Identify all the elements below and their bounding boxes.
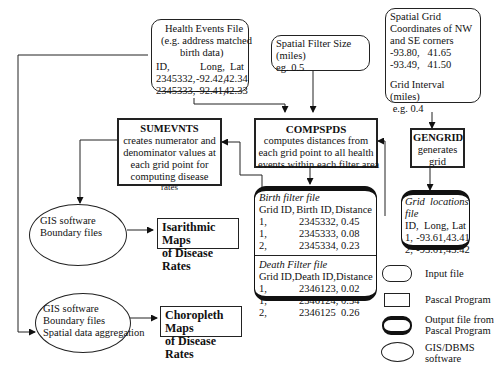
grid-locations-row: 1, -93.61, 43.41 bbox=[405, 232, 466, 244]
filter-output-file: Birth filter file Grid ID, Birth ID, Dis… bbox=[254, 186, 377, 301]
health-file-header: ID, Long, Lat bbox=[156, 61, 244, 73]
sumevnts-desc: creates numerator and bbox=[121, 135, 218, 147]
death-filter-row: 1, 2346124, 0.34 bbox=[259, 295, 372, 307]
spatial-grid-desc: and SE corners bbox=[390, 35, 476, 47]
isarithmic-maps-output: Isarithmic Maps of Disease Rates bbox=[157, 218, 239, 249]
grid-locations-title: Grid locations bbox=[405, 196, 466, 208]
compspds-desc: computes distances from bbox=[258, 135, 374, 147]
birth-filter-row: 1, 2345333, 0.08 bbox=[259, 228, 372, 240]
sumevnts-desc: rates bbox=[121, 183, 218, 192]
filter-divider bbox=[255, 255, 376, 256]
gis-isarithmic-ellipse: GIS software Boundary files bbox=[29, 204, 127, 266]
grid-interval-example: e.g. 0.4 bbox=[390, 103, 476, 115]
death-filter-row: 1, 2346123, 0.02 bbox=[259, 283, 372, 295]
compspds-desc: events within each filter area bbox=[258, 159, 374, 171]
spatial-grid-nw-coord: -93.80, 41.65 bbox=[390, 47, 476, 59]
birth-filter-header: Grid ID, Birth ID, Distance bbox=[259, 204, 372, 216]
grid-interval-label: Grid Interval bbox=[390, 79, 476, 91]
spatial-filter-example: eg. 0.5 bbox=[276, 62, 365, 74]
grid-locations-header: ID, Long, Lat bbox=[405, 220, 466, 232]
choropleth-title: of Disease Rates bbox=[165, 335, 237, 361]
gis-label: Boundary files bbox=[40, 227, 126, 239]
birth-filter-row: 1, 2345332, 0.45 bbox=[259, 216, 372, 228]
gis-label: GIS software bbox=[40, 215, 126, 227]
compspds-desc: each grid point to all health bbox=[258, 147, 374, 159]
legend: Input file Pascal Program Output file fr… bbox=[380, 262, 485, 372]
health-file-title: Health Events File bbox=[156, 23, 244, 35]
health-file-subtitle: birth data) bbox=[156, 47, 244, 59]
death-filter-title: Death Filter file bbox=[259, 259, 372, 271]
health-file-row: 2345332, -92.42, 42.34 bbox=[156, 73, 244, 85]
sumevnts-title: SUMEVNTS bbox=[121, 123, 218, 135]
sumevnts-desc: denominator values at bbox=[121, 147, 218, 159]
legend-input-file-swatch bbox=[382, 265, 412, 282]
health-file-row: 2345333, -92.41, 42.33 bbox=[156, 85, 244, 97]
spatial-filter-label: Spatial Filter Size bbox=[276, 38, 365, 50]
isarithmic-title: Isarithmic Maps bbox=[162, 221, 234, 247]
choropleth-maps-output: Choropleth Maps of Disease Rates bbox=[160, 306, 242, 337]
health-events-file: Health Events File (e.g. address matched… bbox=[151, 19, 249, 92]
grid-locations-file: Grid locations file ID, Long, Lat 1, -93… bbox=[401, 190, 470, 250]
gengrid-desc: generates bbox=[413, 144, 462, 156]
spatial-filter-units: (miles) bbox=[276, 50, 365, 62]
spatial-grid-se-coord: -93.49, 41.50 bbox=[390, 59, 476, 71]
compspds-title: COMPSPDS bbox=[258, 123, 374, 135]
death-filter-header: Grid ID, Death ID, Distance bbox=[259, 271, 372, 283]
gengrid-desc: grid bbox=[413, 156, 462, 168]
grid-interval-units: (miles) bbox=[390, 91, 476, 103]
legend-output-file-label: Pascal Program bbox=[425, 325, 491, 337]
gengrid-title: GENGRID bbox=[413, 132, 462, 144]
sumevnts-program: SUMEVNTS creates numerator and denominat… bbox=[117, 118, 222, 186]
gis-choropleth-ellipse: GIS software Boundary files Spatial data… bbox=[35, 293, 131, 353]
gis-label: Spatial data aggregation bbox=[43, 327, 130, 339]
sumevnts-desc: each grid point for bbox=[121, 159, 218, 171]
spatial-grid-file: Spatial Grid Coordinates of NW and SE co… bbox=[385, 8, 481, 103]
spatial-filter-size-file: Spatial Filter Size (miles) eg. 0.5 bbox=[271, 35, 370, 71]
spatial-grid-desc: Coordinates of NW bbox=[390, 23, 476, 35]
health-file-subtitle: (e.g. address matched bbox=[156, 35, 244, 47]
compspds-program: COMPSPDS computes distances from each gr… bbox=[254, 118, 378, 168]
spatial-grid-title: Spatial Grid bbox=[390, 11, 476, 23]
legend-gis-swatch bbox=[381, 342, 414, 362]
legend-output-file-swatch bbox=[382, 316, 412, 335]
grid-locations-title: file bbox=[405, 208, 466, 220]
legend-program-swatch bbox=[384, 293, 410, 307]
death-filter-row: 2, 2346125 0.26 bbox=[259, 307, 372, 319]
gengrid-program: GENGRID generates grid bbox=[410, 128, 465, 168]
birth-filter-title: Birth filter file bbox=[259, 192, 372, 204]
choropleth-title: Choropleth Maps bbox=[165, 309, 237, 335]
legend-input-file-label: Input file bbox=[425, 268, 464, 280]
birth-filter-row: 2, 2345334, 0.23 bbox=[259, 240, 372, 252]
isarithmic-title: of Disease Rates bbox=[162, 247, 234, 273]
gis-label: Boundary files bbox=[43, 315, 130, 327]
legend-program-label: Pascal Program bbox=[425, 294, 491, 306]
legend-gis-label: software bbox=[425, 353, 461, 365]
grid-locations-row: 2, -93.61, 43.42 bbox=[405, 244, 466, 256]
gis-label: GIS software bbox=[43, 303, 130, 315]
